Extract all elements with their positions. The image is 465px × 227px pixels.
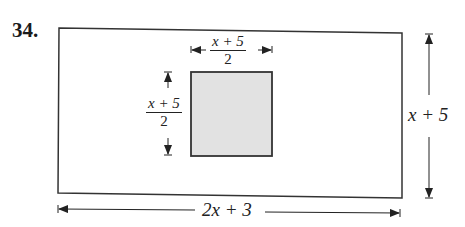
- rectangle-width-label: 2x + 3: [199, 199, 255, 221]
- square-width-denominator: 2: [224, 51, 232, 67]
- square-height-label: x + 5 2: [146, 96, 182, 129]
- square-height-denominator: 2: [160, 113, 168, 129]
- square-width-numerator: x + 5: [210, 34, 246, 51]
- square-height-numerator: x + 5: [146, 96, 182, 113]
- inner-square: [191, 72, 272, 156]
- rectangle-height-label: x + 5: [407, 104, 449, 126]
- square-width-label: x + 5 2: [210, 34, 246, 67]
